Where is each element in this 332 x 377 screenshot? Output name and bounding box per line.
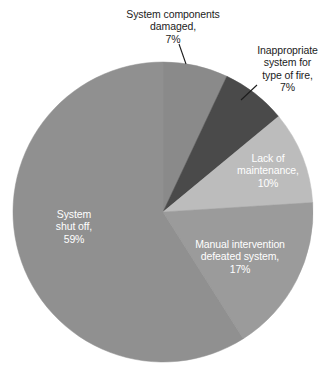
slice-label-inappropriate-system: Inappropriate system for type of fire, 7… (243, 44, 332, 94)
slice-label-lack-of-maintenance: Lack of maintenance, 10% (224, 152, 312, 189)
slice-label-system-shut-off: System shut off, 59% (31, 208, 117, 245)
pie-chart-figure: System components damaged, 7% Inappropri… (0, 0, 332, 377)
slice-label-system-components-damaged: System components damaged, 7% (98, 8, 248, 45)
slice-label-manual-intervention: Manual intervention defeated system, 17% (166, 238, 314, 275)
leader-line-system-components-damaged (179, 44, 186, 64)
